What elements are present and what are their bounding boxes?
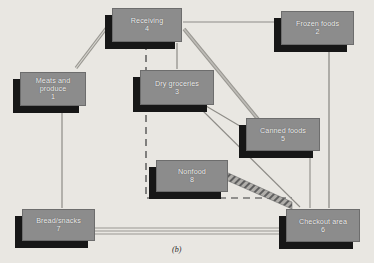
node-meats-and-produce[interactable]: Meats and produce 1: [20, 72, 86, 106]
node-face: Nonfood 8: [156, 160, 228, 192]
node-receiving[interactable]: Receiving 4: [112, 8, 182, 42]
node-face: Receiving 4: [112, 8, 182, 42]
node-number: 8: [190, 176, 194, 184]
node-face: Meats and produce 1: [20, 72, 86, 106]
edge-nonfood-checkout-hatched: [226, 172, 292, 209]
node-number: 3: [175, 88, 179, 96]
node-canned-foods[interactable]: Canned foods 5: [246, 118, 320, 151]
node-face: Checkout area 6: [286, 209, 360, 242]
node-face: Dry groceries 3: [140, 70, 214, 105]
node-number: 1: [51, 93, 55, 101]
node-checkout-area[interactable]: Checkout area 6: [286, 209, 360, 242]
node-number: 4: [145, 25, 149, 33]
node-frozen-foods[interactable]: Frozen foods 2: [281, 11, 354, 45]
figure-caption: (b): [172, 245, 181, 254]
diagram-canvas: Meats and produce 1 Frozen foods 2 Dry g…: [0, 0, 374, 263]
node-bread-snacks[interactable]: Bread/snacks 7: [22, 209, 95, 241]
node-nonfood[interactable]: Nonfood 8: [156, 160, 228, 192]
node-number: 2: [316, 28, 320, 36]
edge-bread-checkout: [95, 228, 290, 234]
node-dry-groceries[interactable]: Dry groceries 3: [140, 70, 214, 105]
node-number: 5: [281, 135, 285, 143]
node-face: Bread/snacks 7: [22, 209, 95, 241]
node-face: Frozen foods 2: [281, 11, 354, 45]
node-number: 6: [321, 226, 325, 234]
node-face: Canned foods 5: [246, 118, 320, 151]
node-number: 7: [57, 225, 61, 233]
